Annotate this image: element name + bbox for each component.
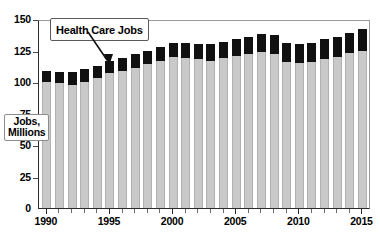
bar-segment-other-jobs bbox=[345, 53, 354, 208]
x-tick-1990 bbox=[46, 209, 47, 214]
x-tick-2007 bbox=[260, 209, 261, 213]
bar-segment-health-care-jobs bbox=[55, 72, 64, 83]
bar-segment-other-jobs bbox=[55, 83, 64, 208]
bars-layer bbox=[39, 21, 369, 208]
x-tick-1994 bbox=[96, 209, 97, 213]
bar-segment-health-care-jobs bbox=[345, 33, 354, 53]
bar-segment-other-jobs bbox=[181, 58, 190, 208]
bar-segment-health-care-jobs bbox=[169, 43, 178, 57]
y-tick-label: 150 bbox=[14, 13, 31, 25]
y-tick-label: 25 bbox=[20, 171, 31, 183]
x-tick-2000 bbox=[172, 209, 173, 214]
bar-segment-health-care-jobs bbox=[282, 43, 291, 62]
bar-segment-other-jobs bbox=[282, 62, 291, 208]
bar-segment-health-care-jobs bbox=[244, 37, 253, 55]
bar-segment-other-jobs bbox=[270, 54, 279, 208]
x-tick-2003 bbox=[210, 209, 211, 213]
bar-segment-health-care-jobs bbox=[206, 44, 215, 60]
bar-segment-other-jobs bbox=[232, 56, 241, 208]
y-tick-label: 125 bbox=[14, 45, 31, 57]
bar-segment-health-care-jobs bbox=[270, 35, 279, 54]
x-tick-2013 bbox=[336, 209, 337, 213]
bar-segment-other-jobs bbox=[42, 82, 51, 208]
bar-segment-other-jobs bbox=[131, 68, 140, 208]
x-tick-1999 bbox=[159, 209, 160, 213]
bar-segment-other-jobs bbox=[244, 54, 253, 208]
x-tick-2008 bbox=[273, 209, 274, 213]
bar-segment-other-jobs bbox=[118, 71, 127, 208]
bar-segment-health-care-jobs bbox=[118, 58, 127, 71]
plot-area bbox=[38, 20, 370, 209]
bar-segment-other-jobs bbox=[219, 58, 228, 208]
bar-segment-health-care-jobs bbox=[68, 72, 77, 85]
chart-container: 0255075100125150 19901995200020052010201… bbox=[0, 0, 380, 240]
x-tick-label-2010: 2010 bbox=[287, 215, 310, 228]
bar-segment-health-care-jobs bbox=[358, 29, 367, 50]
bar-segment-other-jobs bbox=[68, 85, 77, 208]
x-tick-2005 bbox=[235, 209, 236, 214]
x-tick-1996 bbox=[122, 209, 123, 213]
bar-segment-other-jobs bbox=[194, 59, 203, 208]
x-tick-1992 bbox=[71, 209, 72, 213]
bar-segment-health-care-jobs bbox=[131, 54, 140, 68]
bar-segment-other-jobs bbox=[333, 57, 342, 208]
health-care-jobs-callout: Health Care Jobs bbox=[50, 18, 149, 41]
x-tick-1997 bbox=[134, 209, 135, 213]
bar-segment-other-jobs bbox=[295, 63, 304, 208]
bar-segment-health-care-jobs bbox=[219, 42, 228, 58]
bar-segment-other-jobs bbox=[257, 52, 266, 208]
bar-segment-other-jobs bbox=[206, 61, 215, 208]
x-tick-label-2015: 2015 bbox=[350, 215, 373, 228]
x-tick-2012 bbox=[324, 209, 325, 213]
bar-segment-other-jobs bbox=[105, 73, 114, 208]
bar-segment-health-care-jobs bbox=[333, 37, 342, 57]
y-tick-label: 0 bbox=[25, 202, 31, 214]
bar-segment-health-care-jobs bbox=[105, 61, 114, 74]
health-care-jobs-callout-label: Health Care Jobs bbox=[56, 24, 143, 36]
x-tick-label-1990: 1990 bbox=[35, 215, 58, 228]
bar-segment-health-care-jobs bbox=[295, 44, 304, 63]
x-tick-2002 bbox=[197, 209, 198, 213]
x-tick-2009 bbox=[286, 209, 287, 213]
bar-segment-other-jobs bbox=[93, 78, 102, 208]
x-tick-2004 bbox=[223, 209, 224, 213]
bar-segment-health-care-jobs bbox=[143, 51, 152, 65]
bar-segment-health-care-jobs bbox=[194, 44, 203, 59]
x-tick-1998 bbox=[147, 209, 148, 213]
bar-segment-health-care-jobs bbox=[181, 43, 190, 58]
bar-segment-health-care-jobs bbox=[257, 34, 266, 52]
x-tick-1995 bbox=[109, 209, 110, 214]
x-tick-2011 bbox=[311, 209, 312, 213]
x-tick-2015 bbox=[361, 209, 362, 214]
x-tick-2010 bbox=[298, 209, 299, 214]
bar-segment-other-jobs bbox=[80, 82, 89, 208]
x-tick-1993 bbox=[84, 209, 85, 213]
bar-segment-health-care-jobs bbox=[307, 43, 316, 62]
bar-segment-other-jobs bbox=[156, 61, 165, 208]
x-tick-label-1995: 1995 bbox=[98, 215, 121, 228]
bar-segment-other-jobs bbox=[358, 51, 367, 209]
bar-segment-other-jobs bbox=[143, 64, 152, 208]
y-tick-label: 100 bbox=[14, 76, 31, 88]
x-tick-label-2000: 2000 bbox=[161, 215, 184, 228]
x-tick-label-2005: 2005 bbox=[224, 215, 247, 228]
bar-segment-health-care-jobs bbox=[320, 39, 329, 59]
x-tick-2006 bbox=[248, 209, 249, 213]
bar-segment-health-care-jobs bbox=[42, 71, 51, 82]
bar-segment-health-care-jobs bbox=[232, 39, 241, 55]
bar-segment-other-jobs bbox=[169, 57, 178, 208]
bar-segment-health-care-jobs bbox=[93, 66, 102, 79]
bar-segment-health-care-jobs bbox=[156, 47, 165, 61]
y-axis-title: Jobs, Millions bbox=[4, 114, 49, 141]
x-tick-1991 bbox=[58, 209, 59, 213]
x-tick-2014 bbox=[349, 209, 350, 213]
bar-segment-health-care-jobs bbox=[80, 69, 89, 82]
y-axis-title-line2: Millions bbox=[8, 127, 45, 138]
bar-segment-other-jobs bbox=[320, 59, 329, 208]
x-tick-2001 bbox=[185, 209, 186, 213]
bar-segment-other-jobs bbox=[307, 62, 316, 208]
